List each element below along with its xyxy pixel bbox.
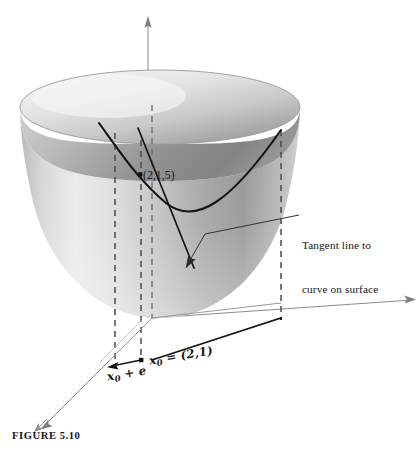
bowl-interior-highlight	[30, 74, 186, 118]
paraboloid-surface	[20, 70, 300, 318]
base-plane-left-edge	[110, 318, 152, 360]
figure-caption: FIGURE 5.10	[12, 430, 80, 442]
tangent-annotation-line-1: Tangent line to	[302, 238, 378, 253]
tangent-annotation-line-2: curve on surface	[302, 282, 378, 297]
base-plane-left-edge-2	[100, 320, 142, 362]
x0-point-marker	[139, 358, 143, 362]
surface-point-label: (2,1,5)	[143, 169, 175, 182]
figure-canvas: (2,1,5) Tangent line to curve on surface…	[0, 0, 420, 456]
perturbed-point-rest: + e	[119, 363, 147, 381]
tangency-point-marker	[138, 172, 142, 176]
x-axis-arrowhead	[404, 295, 416, 303]
tangent-annotation: Tangent line to curve on surface	[302, 209, 378, 326]
